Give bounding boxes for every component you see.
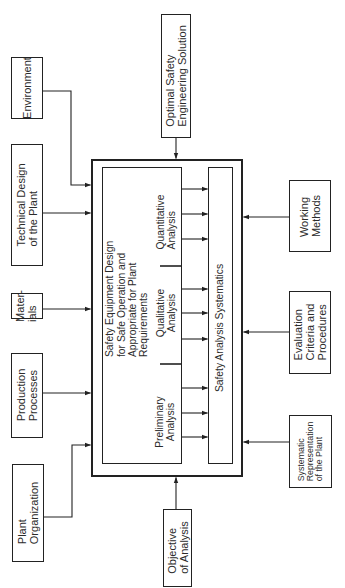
safety-analysis-systematics-label: Safety Analysis Systematics (208, 248, 232, 408)
preliminary-analysis-label: Preliminary Analysis (152, 387, 178, 457)
evaluation-criteria-box: Evaluation Criteria and Procedures (289, 291, 331, 374)
materials-box: Mater- ials (11, 293, 43, 319)
objective-box: Objective of Analysis (163, 509, 192, 587)
technical-design-box: Technical Design of the Plant (11, 144, 43, 266)
environment-box: Environment (11, 57, 43, 119)
qualitative-analysis-label: Qualitative Analysis (153, 278, 179, 348)
plant-organization-box: Plant Organization (12, 464, 44, 562)
quantitative-analysis-label: Quantitative Analysis (153, 182, 179, 262)
design-goal-label: Safety Equipment Design for Safe Operati… (104, 157, 150, 357)
optimal-solution-box: Optimal Safety Engineering Solution (161, 14, 191, 138)
plant-organization-connector (44, 445, 91, 517)
systematic-representation-box: Systematic Representation of the Plant (289, 415, 332, 488)
production-processes-box: Production Processes (11, 353, 43, 438)
environment-connector (43, 91, 91, 185)
working-methods-box: Working Methods (289, 180, 331, 252)
